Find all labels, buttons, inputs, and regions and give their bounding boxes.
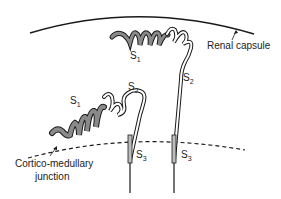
juxtamedullary-s1-label: S1 — [70, 95, 81, 108]
renal-capsule-line — [30, 17, 254, 34]
superficial-s1-label: S1 — [130, 50, 141, 63]
renal-capsule-label: Renal capsule — [207, 40, 271, 51]
superficial-s3-label: S3 — [181, 149, 192, 162]
junction-label-line1: Cortico-medullary — [15, 158, 93, 169]
superficial-s2-label: S2 — [183, 72, 194, 85]
junction-arrow-head — [53, 146, 57, 150]
nephron-diagram: Renal capsule Cortico-medullary junction… — [0, 0, 281, 199]
juxtamedullary-s3-label: S3 — [136, 149, 147, 162]
capsule-arrow-head — [234, 30, 238, 34]
junction-label-line2: junction — [34, 171, 69, 182]
